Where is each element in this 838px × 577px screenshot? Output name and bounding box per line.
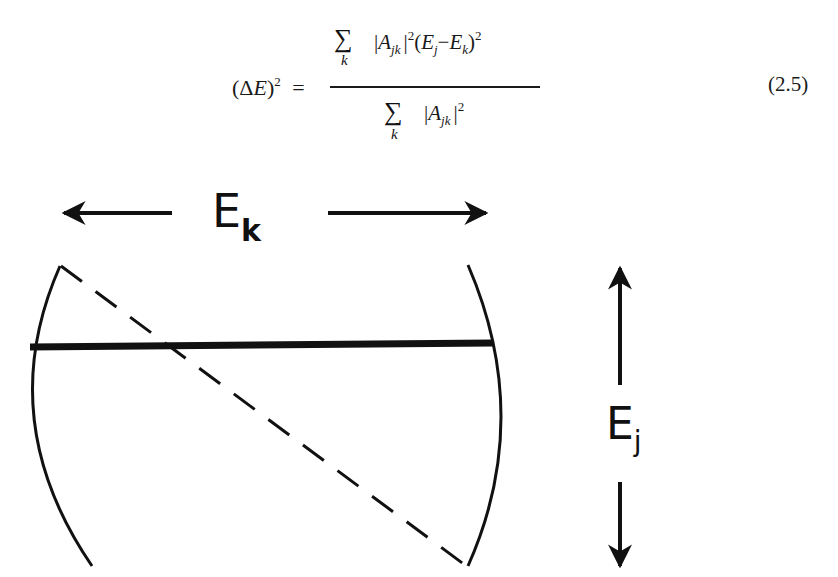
dashed-diagonal	[61, 266, 465, 565]
energy-diagram	[0, 0, 838, 577]
ek-label: Ek	[212, 188, 261, 246]
energy-level-line	[30, 343, 493, 347]
ej-label: Ej	[606, 402, 642, 456]
right-arc	[468, 265, 501, 566]
left-arc	[32, 266, 92, 566]
